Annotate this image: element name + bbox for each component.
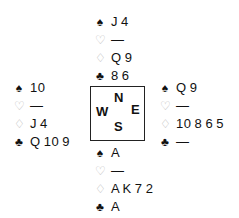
compass-north: N — [114, 91, 123, 105]
heart-icon: ♡ — [12, 97, 26, 115]
spade-icon: ♠ — [158, 79, 172, 97]
south-spades-row: ♠ A — [93, 144, 153, 162]
east-hand: ♠ Q 9 ♡ — ♢ 10 8 6 5 ♣ — — [158, 79, 224, 151]
north-spades: J 4 — [111, 13, 129, 31]
north-spades-row: ♠ J 4 — [93, 13, 132, 31]
north-clubs-row: ♣ 8 6 — [93, 67, 132, 85]
south-clubs: A — [111, 198, 120, 216]
club-icon: ♣ — [12, 133, 26, 151]
west-diamonds-row: ♢ J 4 — [12, 115, 70, 133]
heart-icon: ♡ — [158, 97, 172, 115]
west-clubs-row: ♣ Q 10 9 — [12, 133, 70, 151]
spade-icon: ♠ — [12, 79, 26, 97]
spade-icon: ♠ — [93, 13, 107, 31]
west-spades: 10 — [30, 79, 45, 97]
east-spades-row: ♠ Q 9 — [158, 79, 224, 97]
south-hearts-row: ♡ — — [93, 162, 153, 180]
south-diamonds: A K 7 2 — [111, 180, 153, 198]
club-icon: ♣ — [93, 67, 107, 85]
east-hearts-row: ♡ — — [158, 97, 224, 115]
south-hand: ♠ A ♡ — ♢ A K 7 2 ♣ A — [93, 144, 153, 216]
south-clubs-row: ♣ A — [93, 198, 153, 216]
north-diamonds: Q 9 — [111, 49, 132, 67]
north-hand: ♠ J 4 ♡ — ♢ Q 9 ♣ 8 6 — [93, 13, 132, 85]
club-icon: ♣ — [158, 133, 172, 151]
diamond-icon: ♢ — [158, 115, 172, 133]
east-hearts: — — [176, 97, 190, 115]
compass-west: W — [96, 105, 108, 119]
heart-icon: ♡ — [93, 31, 107, 49]
west-clubs: Q 10 9 — [30, 133, 70, 151]
west-diamonds: J 4 — [30, 115, 48, 133]
east-clubs-row: ♣ — — [158, 133, 224, 151]
west-hand: ♠ 10 ♡ — ♢ J 4 ♣ Q 10 9 — [12, 79, 70, 151]
club-icon: ♣ — [93, 198, 107, 216]
east-diamonds-row: ♢ 10 8 6 5 — [158, 115, 224, 133]
diamond-icon: ♢ — [12, 115, 26, 133]
north-hearts-row: ♡ — — [93, 31, 132, 49]
compass-east: E — [131, 103, 140, 117]
east-spades: Q 9 — [176, 79, 197, 97]
compass-south: S — [114, 120, 123, 134]
east-clubs: — — [176, 133, 190, 151]
compass-box: N W E S — [90, 86, 145, 141]
south-diamonds-row: ♢ A K 7 2 — [93, 180, 153, 198]
heart-icon: ♡ — [93, 162, 107, 180]
west-hearts-row: ♡ — — [12, 97, 70, 115]
north-clubs: 8 6 — [111, 67, 130, 85]
west-spades-row: ♠ 10 — [12, 79, 70, 97]
diamond-icon: ♢ — [93, 49, 107, 67]
spade-icon: ♠ — [93, 144, 107, 162]
north-diamonds-row: ♢ Q 9 — [93, 49, 132, 67]
east-diamonds: 10 8 6 5 — [176, 115, 224, 133]
west-hearts: — — [30, 97, 44, 115]
south-spades: A — [111, 144, 120, 162]
north-hearts: — — [111, 31, 125, 49]
south-hearts: — — [111, 162, 125, 180]
diamond-icon: ♢ — [93, 180, 107, 198]
